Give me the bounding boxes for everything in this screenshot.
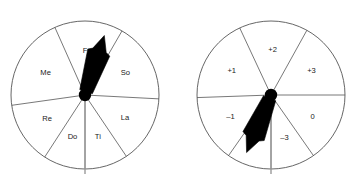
left-spinner-canvas: FaSoLaTiDoReMe bbox=[0, 9, 171, 181]
spinner-figure: FaSoLaTiDoReMe +2+30–3–2–1+1 bbox=[0, 0, 364, 187]
sector-label: –1 bbox=[226, 112, 234, 121]
spinner-hub[interactable] bbox=[79, 89, 91, 101]
sector-label: +2 bbox=[268, 45, 277, 54]
sector-label: Re bbox=[42, 114, 52, 123]
interval-spinner-wheel[interactable]: +2+30–3–2–1+1 bbox=[185, 9, 357, 181]
sector-label: So bbox=[121, 68, 130, 77]
solfege-spinner-wheel[interactable]: FaSoLaTiDoReMe bbox=[0, 9, 171, 181]
right-spinner-canvas: +2+30–3–2–1+1 bbox=[185, 9, 357, 181]
sector-label: Ti bbox=[95, 132, 101, 141]
sector-label: Do bbox=[68, 132, 78, 141]
sector-label: –3 bbox=[280, 133, 288, 142]
sector-label: Me bbox=[40, 68, 51, 77]
spinner-hub[interactable] bbox=[265, 89, 277, 101]
sector-label: La bbox=[121, 113, 130, 122]
sector-label: +1 bbox=[227, 66, 236, 75]
sector-label: 0 bbox=[311, 112, 315, 121]
sector-label: +3 bbox=[307, 66, 316, 75]
